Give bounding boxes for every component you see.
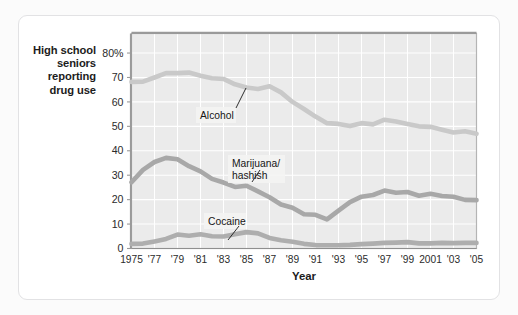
x-tick-label: '89	[286, 254, 300, 265]
marijuana-label: Marijuana/	[232, 158, 280, 169]
x-tick-label: '79	[171, 254, 185, 265]
y-axis-tick-labels: 01020304050607080%	[102, 47, 131, 254]
x-tick-label: '85	[240, 254, 254, 265]
x-tick-label: '05	[470, 254, 484, 265]
x-tick-label: '77	[148, 254, 162, 265]
y-tick-label: 40	[112, 144, 124, 156]
cocaine-label: Cocaine	[208, 216, 246, 227]
y-tick-label: 50	[112, 120, 124, 132]
x-tick-label: '81	[194, 254, 208, 265]
x-tick-label: '91	[309, 254, 323, 265]
y-tick-label: 30	[112, 169, 124, 181]
y-tick-label: 10	[112, 218, 124, 230]
x-tick-label: '83	[217, 254, 231, 265]
y-tick-label: 80%	[102, 47, 124, 59]
figure-canvas: High school seniors reporting drug use 0…	[0, 0, 518, 315]
y-tick-label: 20	[112, 193, 124, 205]
x-tick-label: '95	[355, 254, 369, 265]
x-tick-label: 2001	[419, 254, 442, 265]
marijuana-label: hashish	[232, 170, 268, 181]
x-axis-tick-labels: 1975'77'79'81'83'85'87'89'91'93'95'97'99…	[120, 254, 483, 265]
x-tick-label: '03	[447, 254, 461, 265]
alcohol-label: Alcohol	[200, 110, 234, 121]
x-axis-title: Year	[292, 270, 317, 282]
x-tick-label: '93	[332, 254, 346, 265]
line-chart: 01020304050607080% 1975'77'79'81'83'85'8…	[0, 0, 518, 315]
x-tick-label: '87	[263, 254, 277, 265]
x-tick-label: '97	[378, 254, 392, 265]
y-tick-label: 0	[118, 242, 124, 254]
x-tick-label: '99	[401, 254, 415, 265]
x-axis-title-group: Year	[292, 270, 317, 282]
y-tick-label: 60	[112, 96, 124, 108]
x-tick-label: 1975	[120, 254, 143, 265]
y-tick-label: 70	[112, 71, 124, 83]
